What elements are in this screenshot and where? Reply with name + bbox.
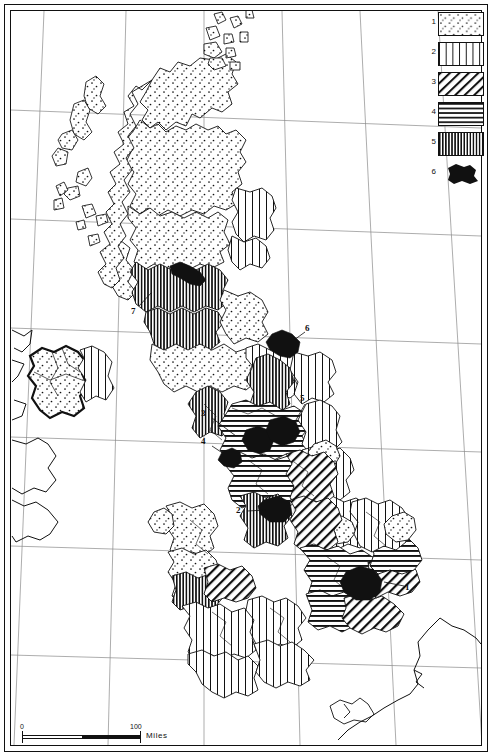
- legend-swatch-vertical-dense: [438, 132, 484, 156]
- scale-label-start: 0: [20, 723, 24, 730]
- legend-swatch-vertical-wide: [438, 42, 484, 66]
- legend-swatch-solid: [438, 162, 484, 186]
- region-ni-east: [78, 346, 114, 402]
- legend-number-4: 4: [424, 107, 436, 117]
- region-south-wales-coast: [204, 564, 256, 602]
- legend-row-5: 5: [424, 132, 486, 156]
- channel-islands: [330, 698, 374, 724]
- map-label-6: 6: [305, 323, 310, 333]
- map-legend: 1 2 3 4 5: [424, 12, 486, 192]
- legend-number-3: 3: [424, 77, 436, 87]
- legend-number-2: 2: [424, 47, 436, 57]
- legend-swatch-diagonal: [438, 72, 484, 96]
- legend-swatch-horizontal: [438, 102, 484, 126]
- legend-row-3: 3: [424, 72, 486, 96]
- map-label-1: 1: [405, 582, 410, 592]
- map-figure: 1 2 3 4 5 6 7 1 2 3 4: [0, 0, 492, 756]
- map-label-2: 2: [236, 505, 241, 515]
- scale-bar-fill: [82, 735, 140, 739]
- scale-bar: 0 100 Miles: [18, 725, 168, 747]
- legend-row-2: 2: [424, 42, 486, 66]
- scale-tick-end: [140, 731, 141, 743]
- continental-coast: [338, 618, 481, 740]
- legend-row-1: 1: [424, 12, 486, 36]
- region-south-england: [182, 596, 314, 698]
- map-label-4: 4: [201, 436, 206, 446]
- legend-number-5: 5: [424, 137, 436, 147]
- scale-label-end: 100: [130, 723, 142, 730]
- map-label-7: 7: [131, 306, 136, 316]
- map-label-5: 5: [300, 393, 305, 403]
- region-scotland-east: [228, 188, 276, 270]
- scale-tick-start: [22, 731, 23, 743]
- legend-number-1: 1: [424, 17, 436, 27]
- map-canvas: [0, 0, 492, 756]
- legend-swatch-stipple: [438, 12, 484, 36]
- legend-number-6: 6: [424, 167, 436, 177]
- region-northern-ireland: [28, 346, 88, 418]
- legend-row-4: 4: [424, 102, 486, 126]
- map-label-3: 3: [201, 408, 206, 418]
- scale-unit-label: Miles: [146, 731, 168, 740]
- legend-row-6: 6: [424, 162, 486, 186]
